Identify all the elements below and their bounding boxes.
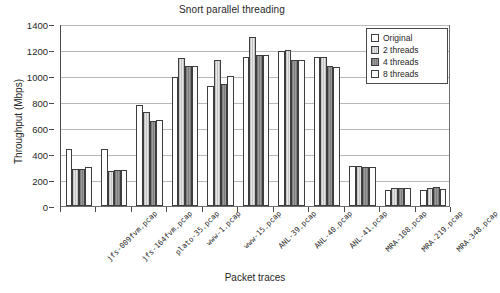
bar — [249, 37, 256, 206]
x-tick-mark — [450, 207, 451, 212]
bar — [298, 60, 305, 206]
y-axis-title: Throughput (Mbps) — [13, 42, 24, 202]
bar — [108, 171, 115, 206]
y-tick-mark — [49, 181, 54, 182]
legend-label: 8 threads — [383, 69, 418, 79]
y-tick-mark — [49, 77, 54, 78]
bar — [256, 55, 263, 206]
bar — [121, 170, 128, 206]
legend-label: 2 threads — [383, 45, 418, 55]
bar — [285, 50, 292, 206]
y-tick-mark — [49, 103, 54, 104]
y-axis: 0200400600800100012001400 — [0, 25, 54, 207]
bar — [214, 60, 221, 206]
chart-title: Snort parallel threading — [0, 4, 464, 15]
bar — [333, 67, 340, 206]
y-tick-mark — [49, 207, 54, 208]
bar — [314, 57, 321, 207]
bar — [207, 86, 214, 206]
legend-item[interactable]: 8 threads — [371, 68, 443, 80]
bar — [172, 77, 179, 206]
bar — [291, 60, 298, 206]
bar — [192, 66, 199, 206]
bar — [320, 57, 327, 207]
bar — [385, 190, 392, 206]
y-tick-label: 0 — [43, 202, 48, 213]
x-axis-title: Packet traces — [60, 272, 450, 283]
legend-swatch-icon — [371, 46, 379, 54]
bar — [221, 84, 228, 206]
bar — [136, 105, 143, 206]
bar — [85, 167, 92, 206]
bar — [404, 188, 411, 206]
bar — [243, 57, 250, 207]
bar — [427, 188, 434, 206]
y-tick-mark — [49, 155, 54, 156]
bar-group — [167, 26, 202, 206]
bar — [356, 166, 363, 206]
bar — [433, 187, 440, 206]
bar — [362, 167, 369, 206]
y-tick-mark — [49, 25, 54, 26]
bar — [420, 190, 427, 206]
bar-group — [203, 26, 238, 206]
bar — [263, 55, 270, 206]
bar-group — [238, 26, 273, 206]
bar — [114, 170, 121, 206]
y-tick-label: 800 — [32, 98, 48, 109]
bar — [369, 167, 376, 206]
bar-group — [96, 26, 131, 206]
bar — [150, 121, 157, 206]
bar — [143, 112, 150, 206]
legend: Original2 threads4 threads8 threads — [366, 28, 448, 84]
legend-swatch-icon — [371, 58, 379, 66]
bar — [101, 149, 108, 206]
y-tick-label: 1000 — [27, 72, 48, 83]
bar — [278, 51, 285, 206]
bar — [156, 120, 163, 206]
legend-item[interactable]: 2 threads — [371, 44, 443, 56]
legend-swatch-icon — [371, 34, 379, 42]
legend-item[interactable]: 4 threads — [371, 56, 443, 68]
legend-label: Original — [383, 33, 412, 43]
bar — [185, 66, 192, 206]
bar-group — [309, 26, 344, 206]
x-axis-labels: jfs-009fvm.pcapjfs-164fvm.pcapplato-35.p… — [60, 209, 450, 271]
bar — [178, 58, 185, 206]
bar — [327, 66, 334, 206]
bar-group — [132, 26, 167, 206]
bar-group — [274, 26, 309, 206]
bar — [391, 188, 398, 206]
y-tick-mark — [49, 51, 54, 52]
legend-swatch-icon — [371, 70, 379, 78]
bar-group — [61, 26, 96, 206]
bar — [79, 169, 86, 206]
bar — [398, 188, 405, 206]
y-tick-label: 400 — [32, 150, 48, 161]
y-tick-label: 600 — [32, 124, 48, 135]
bar — [349, 166, 356, 206]
legend-item[interactable]: Original — [371, 32, 443, 44]
y-tick-mark — [49, 129, 54, 130]
bar — [66, 149, 73, 206]
bar — [440, 189, 447, 206]
y-tick-label: 1400 — [27, 20, 48, 31]
y-tick-label: 1200 — [27, 46, 48, 57]
bar — [227, 76, 234, 206]
legend-label: 4 threads — [383, 57, 418, 67]
bar — [72, 169, 79, 206]
y-tick-label: 200 — [32, 176, 48, 187]
